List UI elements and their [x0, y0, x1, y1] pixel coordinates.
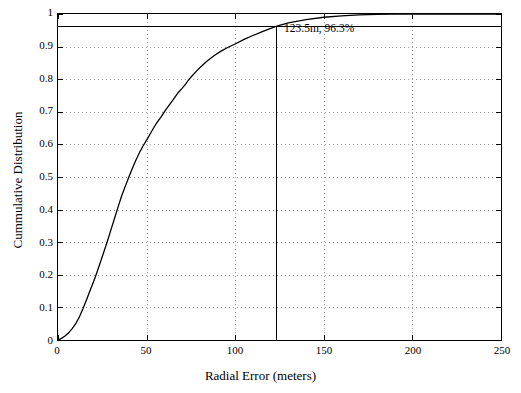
y-tick-label: 0.7	[39, 105, 53, 116]
x-tick-label: 50	[126, 345, 166, 356]
chart-container: 00.10.20.30.40.50.60.70.80.91 0501001502…	[0, 0, 521, 393]
x-tick-label: 100	[215, 345, 255, 356]
x-tick-label: 250	[482, 345, 521, 356]
y-tick-label: 0.5	[39, 171, 53, 182]
y-tick-label: 0.4	[39, 204, 53, 215]
y-tick-label: 0.9	[39, 40, 53, 51]
y-tick-label: 0.6	[39, 138, 53, 149]
y-axis-title: Cummulative Distribution	[10, 70, 26, 290]
y-tick-label: 0.3	[39, 237, 53, 248]
x-tick-label: 0	[37, 345, 77, 356]
data-curve-layer	[58, 14, 501, 340]
y-tick-label: 0.8	[39, 73, 53, 84]
marker-label: 123.5m, 96.3%	[284, 22, 354, 34]
y-tick-label: 0.1	[39, 302, 53, 313]
x-axis-title: Radial Error (meters)	[0, 368, 521, 384]
plot-area	[57, 13, 502, 341]
x-tick-label: 150	[304, 345, 344, 356]
y-tick-label: 1	[48, 7, 54, 18]
x-tick-label: 200	[393, 345, 433, 356]
data-curve	[58, 14, 501, 340]
y-tick-label: 0.2	[39, 269, 53, 280]
x-axis-tick-labels: 050100150200250	[0, 345, 521, 361]
